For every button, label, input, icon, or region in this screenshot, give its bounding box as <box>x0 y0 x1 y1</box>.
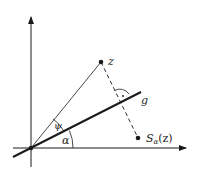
origin-point <box>29 146 34 151</box>
segment-z-reflection <box>101 62 138 138</box>
right-angle-dot <box>122 95 124 97</box>
label-s-arg: (z) <box>158 132 172 145</box>
alpha-arc <box>69 131 73 149</box>
reflection-diagram: z g ψ α Sα(z) <box>0 0 200 179</box>
label-z: z <box>107 55 114 68</box>
right-angle-mark <box>115 89 130 94</box>
label-s-alpha-z: Sα(z) <box>146 132 173 146</box>
point-z <box>99 60 104 65</box>
point-s-alpha-z <box>136 136 141 141</box>
label-alpha: α <box>62 134 70 147</box>
label-g: g <box>141 94 148 107</box>
label-psi: ψ <box>54 120 62 131</box>
